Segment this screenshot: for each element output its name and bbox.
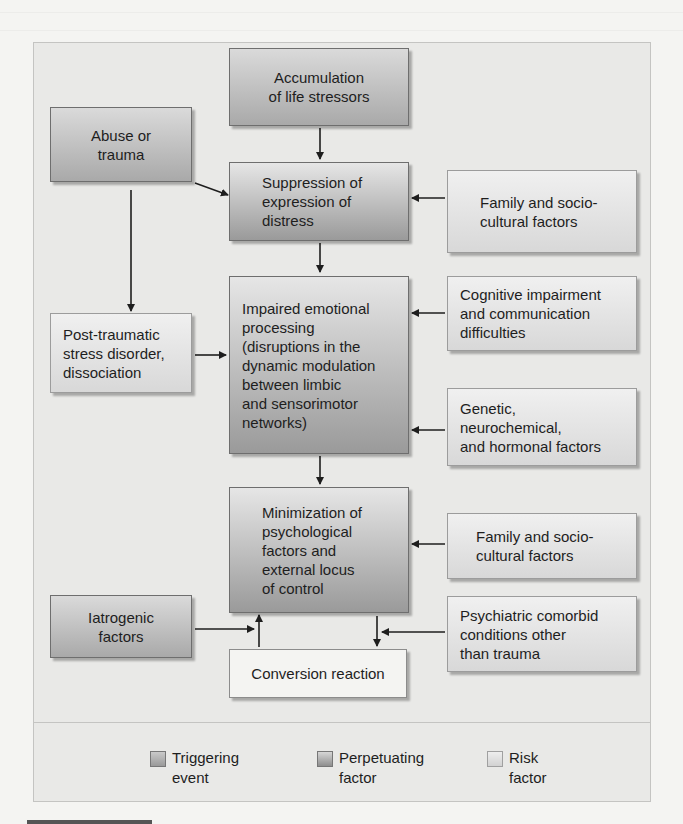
node-label: Minimization of psychological factors an… bbox=[262, 503, 362, 598]
node-label: Cognitive impairment and communication d… bbox=[460, 285, 601, 342]
node-minimization-psychological-factors: Minimization of psychological factors an… bbox=[229, 487, 409, 613]
node-psychiatric-comorbid: Psychiatric comorbid conditions other th… bbox=[447, 596, 637, 672]
node-suppression-of-distress: Suppression of expression of distress bbox=[229, 162, 409, 241]
node-label: Abuse or trauma bbox=[91, 126, 151, 164]
node-label: Psychiatric comorbid conditions other th… bbox=[460, 606, 598, 663]
node-accumulation-of-life-stressors: Accumulation of life stressors bbox=[229, 48, 409, 126]
node-family-sociocultural-1: Family and socio- cultural factors bbox=[447, 170, 637, 253]
node-cognitive-impairment: Cognitive impairment and communication d… bbox=[447, 276, 637, 351]
legend-label: Risk factor bbox=[509, 748, 547, 788]
node-label: Iatrogenic factors bbox=[88, 608, 154, 646]
node-iatrogenic-factors: Iatrogenic factors bbox=[50, 595, 192, 658]
node-conversion-reaction: Conversion reaction bbox=[229, 649, 407, 698]
node-label: Genetic, neurochemical, and hormonal fac… bbox=[460, 399, 601, 456]
legend-item-triggering: Triggering event bbox=[150, 748, 239, 788]
node-label: Impaired emotional processing (disruptio… bbox=[242, 299, 375, 432]
triggering-swatch-icon bbox=[150, 751, 166, 767]
node-impaired-emotional-processing: Impaired emotional processing (disruptio… bbox=[229, 276, 409, 454]
node-label: Suppression of expression of distress bbox=[262, 173, 362, 230]
node-label: Family and socio- cultural factors bbox=[480, 193, 598, 231]
node-label: Conversion reaction bbox=[251, 664, 384, 683]
legend-label: Triggering event bbox=[172, 748, 239, 788]
legend-item-risk: Risk factor bbox=[487, 748, 547, 788]
node-label: Accumulation of life stressors bbox=[269, 68, 370, 106]
node-label: Post-traumatic stress disorder, dissocia… bbox=[63, 325, 165, 382]
node-ptsd-dissociation: Post-traumatic stress disorder, dissocia… bbox=[50, 313, 192, 393]
node-abuse-or-trauma: Abuse or trauma bbox=[50, 107, 192, 182]
caption-bar bbox=[27, 820, 152, 824]
node-family-sociocultural-2: Family and socio- cultural factors bbox=[447, 513, 637, 579]
legend-label: Perpetuating factor bbox=[339, 748, 424, 788]
node-genetic-factors: Genetic, neurochemical, and hormonal fac… bbox=[447, 388, 637, 466]
perpetuating-swatch-icon bbox=[317, 751, 333, 767]
legend-divider bbox=[33, 722, 651, 723]
node-label: Family and socio- cultural factors bbox=[476, 527, 594, 565]
risk-swatch-icon bbox=[487, 751, 503, 767]
legend-item-perpetuating: Perpetuating factor bbox=[317, 748, 424, 788]
